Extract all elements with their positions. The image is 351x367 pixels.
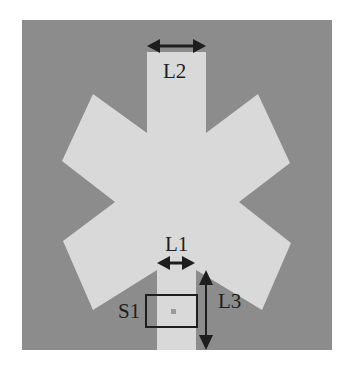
label-l2: L2	[163, 59, 186, 83]
label-l1: L1	[165, 232, 188, 256]
feed-point	[171, 309, 176, 314]
antenna-diagram: L2 L1 L3 S1	[0, 0, 351, 367]
label-s1: S1	[118, 299, 140, 323]
label-l3: L3	[218, 289, 241, 313]
